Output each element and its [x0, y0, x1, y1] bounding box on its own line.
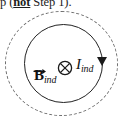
induced-b-field-label: Bind	[34, 66, 56, 88]
caption-fragment-emphasis: not	[13, 0, 30, 9]
induced-current-label: Iind	[76, 55, 93, 75]
vector-arrow-icon	[33, 62, 46, 68]
caption-fragment: p (not Step 1).	[0, 0, 124, 9]
current-direction-arrowhead-icon	[97, 57, 107, 66]
b-field-subscript: ind	[44, 74, 56, 85]
circle-cross-into-page-icon	[57, 60, 73, 76]
current-subscript: ind	[81, 63, 93, 74]
caption-fragment-before: p (	[0, 0, 13, 9]
b-field-symbol-group: B	[34, 68, 44, 83]
caption-fragment-after: Step 1).	[30, 0, 71, 9]
induced-field-figure: p (not Step 1). Bind Iind	[0, 0, 124, 123]
